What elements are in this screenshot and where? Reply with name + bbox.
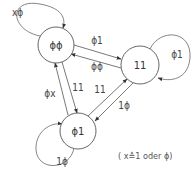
edge-label-s01-s11: 11 xyxy=(94,84,105,95)
node-label-s00: ɸɸ xyxy=(49,39,62,52)
edge-label-s00-s11: ɸ1 xyxy=(91,35,103,46)
legend-note: ( x≙1 oder ɸ) xyxy=(118,151,173,161)
edge-label-loop-s01: 1ɸ xyxy=(56,156,68,167)
edge-s01-s00 xyxy=(55,63,68,115)
edge-label-loop-s00: xɸ xyxy=(12,7,23,18)
edge-label-s00-s01: 11 xyxy=(72,82,83,93)
node-label-s11: 11 xyxy=(134,59,147,72)
edge-label-s11-s01: 1ɸ xyxy=(118,100,130,111)
edge-label-loop-s11: ɸ1 xyxy=(171,49,183,60)
state-diagram: ɸɸ 11 ɸ1 xɸ ɸ1 1ɸ ɸ1 ɸɸ ɸx 11 11 1ɸ ( x≙… xyxy=(0,0,196,178)
node-label-s01: ɸ1 xyxy=(72,125,85,138)
edge-label-s11-s00: ɸɸ xyxy=(91,61,103,72)
edge-label-s01-s00: ɸx xyxy=(44,88,56,99)
